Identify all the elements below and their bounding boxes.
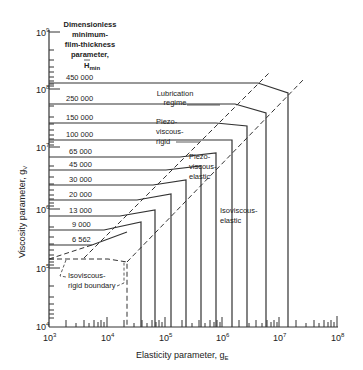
svg-text:rigid: rigid (156, 137, 170, 146)
svg-text:30 000: 30 000 (69, 175, 92, 184)
svg-text:250 000: 250 000 (66, 94, 93, 103)
svg-text:20 000: 20 000 (69, 190, 92, 199)
svg-text:regime: regime (164, 98, 187, 107)
y-ticks (49, 32, 60, 318)
curve-labels: 450 000 250 000 150 000 100 000 65 000 4… (66, 73, 93, 244)
svg-text:107: 107 (36, 142, 50, 153)
svg-text:rigid boundary: rigid boundary (68, 281, 116, 290)
svg-text:Lubrication: Lubrication (157, 89, 194, 98)
svg-text:Isoviscous-: Isoviscous- (68, 271, 106, 280)
x-axis-label: Elasticity parameter, gE (136, 350, 229, 361)
svg-text:parameter,: parameter, (71, 50, 109, 59)
curve-13000 (49, 210, 155, 327)
svg-text:elastic: elastic (189, 172, 211, 181)
svg-text:Piezo-: Piezo- (189, 152, 211, 161)
svg-text:150 000: 150 000 (66, 113, 93, 122)
svg-text:105: 105 (159, 332, 173, 343)
curve-20000 (49, 194, 171, 327)
svg-text:103: 103 (43, 332, 57, 343)
svg-text:minimum-: minimum- (72, 30, 108, 39)
svg-text:elastic: elastic (220, 216, 242, 225)
curve-30000 (49, 180, 186, 327)
svg-text:450 000: 450 000 (66, 73, 93, 82)
svg-text:104: 104 (101, 332, 115, 343)
svg-text:film-thickness: film-thickness (65, 40, 115, 49)
svg-text:108: 108 (36, 84, 50, 95)
svg-text:viscous-: viscous- (156, 127, 184, 136)
svg-text:viscous-: viscous- (189, 162, 217, 171)
svg-text:65 000: 65 000 (69, 147, 92, 156)
svg-text:107: 107 (273, 332, 287, 343)
svg-text:100 000: 100 000 (66, 130, 93, 139)
svg-text:45 000: 45 000 (69, 160, 92, 169)
svg-text:108: 108 (331, 332, 345, 343)
chart: 109 108 107 106 105 104 103 104 105 106 … (0, 0, 363, 370)
svg-text:Hmin: Hmin (84, 61, 100, 71)
svg-text:106: 106 (216, 332, 230, 343)
svg-text:13 000: 13 000 (69, 206, 92, 215)
y-axis-label: Viscosity parameter, gV (17, 166, 28, 258)
svg-text:Piezo-: Piezo- (156, 117, 178, 126)
svg-text:104: 104 (36, 321, 50, 332)
ytick-1e9: 109 (36, 27, 50, 38)
parameter-title: Dimensionless minimum- film-thickness pa… (64, 20, 117, 71)
svg-text:9 000: 9 000 (72, 220, 91, 229)
svg-text:106: 106 (36, 204, 50, 215)
svg-text:Isoviscous-: Isoviscous- (220, 206, 258, 215)
svg-text:105: 105 (36, 263, 50, 274)
svg-text:Dimensionless: Dimensionless (64, 20, 117, 29)
svg-text:6 562: 6 562 (72, 235, 91, 244)
